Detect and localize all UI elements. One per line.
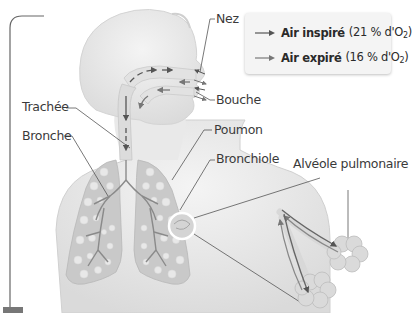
label-trachee: Trachée <box>22 101 69 114</box>
arrow-right-icon <box>255 54 275 62</box>
paren: ) <box>408 25 412 39</box>
label-nez: Nez <box>216 13 239 26</box>
zoom-circle <box>169 213 195 239</box>
legend-label: Air expiré <box>281 51 341 65</box>
label-bronchiole: Bronchiole <box>216 153 279 166</box>
legend-item-expired: Air expiré (16 % d'O2) <box>255 50 409 65</box>
legend-detail: (16 % d'O <box>345 50 399 64</box>
legend-label: Air inspiré <box>281 26 345 40</box>
frame-bracket <box>10 16 44 308</box>
arrow-right-icon <box>255 29 275 37</box>
label-bronche: Bronche <box>22 130 71 143</box>
legend-box: Air inspiré (21 % d'O2) Air expiré (16 %… <box>245 13 391 74</box>
paren: ) <box>404 50 408 64</box>
label-poumon: Poumon <box>214 124 263 137</box>
legend-detail: (21 % d'O <box>349 25 403 39</box>
label-bouche: Bouche <box>216 94 261 107</box>
label-alveole: Alvéole pulmonaire <box>293 158 408 171</box>
legend-item-inspired: Air inspiré (21 % d'O2) <box>255 25 412 40</box>
head <box>80 9 205 124</box>
frame-corner <box>3 307 23 313</box>
